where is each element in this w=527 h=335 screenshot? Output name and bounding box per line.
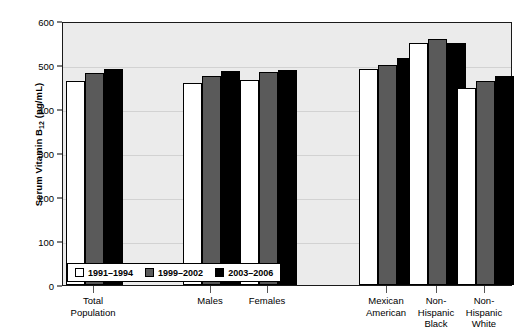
- bar: [104, 69, 123, 285]
- x-axis-tick-mark: [210, 286, 211, 293]
- y-axis-tick-label: 400: [0, 105, 54, 116]
- plot-area: 1991–19941999–20022003–2006: [62, 22, 512, 286]
- bar: [85, 73, 104, 285]
- bar-group: [240, 23, 297, 285]
- bar: [378, 65, 397, 285]
- y-axis-tick-label: 200: [0, 193, 54, 204]
- bar: [409, 43, 428, 285]
- bar: [476, 81, 495, 285]
- x-axis-label-line: Females: [227, 295, 307, 307]
- bar: [278, 70, 297, 285]
- y-axis-tick-label: 0: [0, 281, 54, 292]
- x-axis-tick-label: Non-HispanicWhite: [444, 295, 524, 330]
- legend-label: 1999–2002: [158, 268, 203, 278]
- bar: [240, 80, 259, 285]
- x-axis-tick-mark: [436, 286, 437, 293]
- x-axis-label-line: White: [444, 318, 524, 330]
- white-swatch: [75, 268, 84, 277]
- bar: [259, 72, 278, 285]
- x-axis-label-line: Total: [53, 295, 133, 307]
- legend-label: 1991–1994: [88, 268, 133, 278]
- bar-group: [183, 23, 240, 285]
- y-axis-tick-label: 300: [0, 149, 54, 160]
- x-axis-tick-mark: [386, 286, 387, 293]
- bar: [202, 76, 221, 285]
- legend-item: 2003–2006: [215, 268, 273, 278]
- bar: [495, 76, 514, 285]
- legend-label: 2003–2006: [228, 268, 273, 278]
- x-axis-label-line: Hispanic: [444, 307, 524, 319]
- bar: [183, 83, 202, 285]
- bar: [221, 71, 240, 285]
- y-axis-tick-label: 100: [0, 237, 54, 248]
- x-axis-tick-label: Females: [227, 295, 307, 307]
- y-axis: 0100200300400500600: [0, 0, 62, 335]
- x-axis-tick-mark: [484, 286, 485, 293]
- bar: [457, 88, 476, 285]
- y-axis-tick-label: 600: [0, 17, 54, 28]
- y-axis-tick-label: 500: [0, 61, 54, 72]
- x-axis-label-line: Non-: [444, 295, 524, 307]
- legend: 1991–19941999–20022003–2006: [67, 263, 281, 282]
- x-axis-label-line: Population: [53, 307, 133, 319]
- legend-item: 1999–2002: [145, 268, 203, 278]
- bar-group: [66, 23, 123, 285]
- x-axis-tick-label: TotalPopulation: [53, 295, 133, 318]
- bar: [359, 69, 378, 285]
- x-axis-tick-mark: [93, 286, 94, 293]
- x-axis-tick-mark: [267, 286, 268, 293]
- bar-chart: Serum Vitamin B12 (pg/mL) 01002003004005…: [0, 0, 527, 335]
- gray-swatch: [145, 268, 154, 277]
- black-swatch: [215, 268, 224, 277]
- legend-item: 1991–1994: [75, 268, 133, 278]
- bar: [428, 39, 447, 285]
- bar: [66, 81, 85, 285]
- bar-group: [457, 23, 514, 285]
- bar-group: [359, 23, 416, 285]
